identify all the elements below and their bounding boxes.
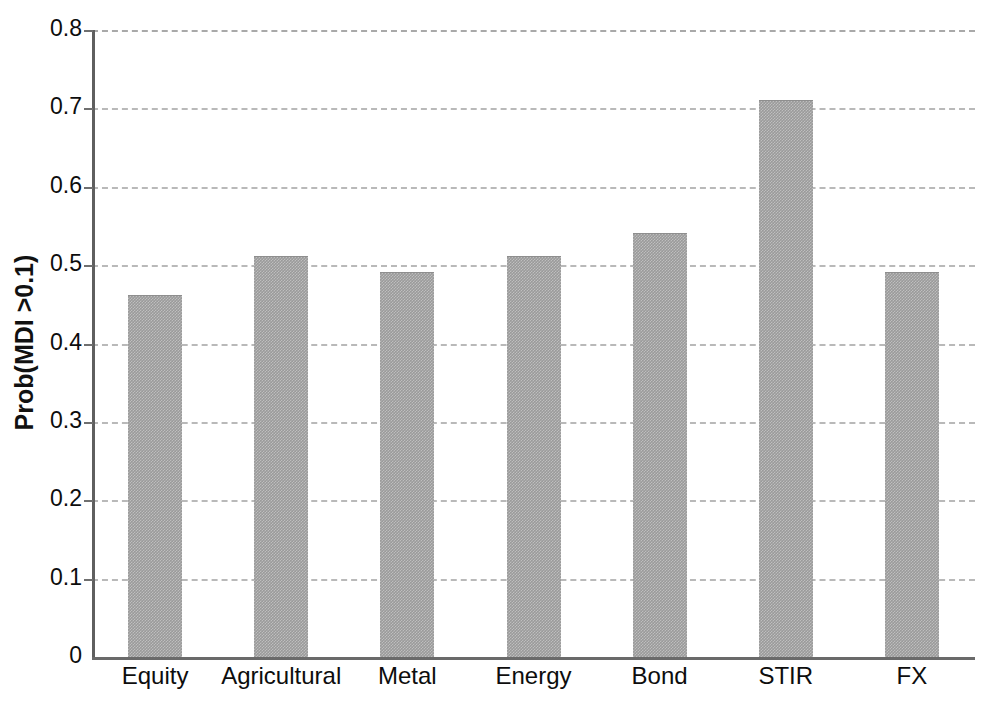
x-axis-tick-label: Equity bbox=[92, 662, 218, 690]
x-axis-tick-label: Bond bbox=[597, 662, 723, 690]
gridline bbox=[92, 30, 975, 32]
plot-area bbox=[92, 30, 975, 657]
x-axis-tick-label: FX bbox=[849, 662, 975, 690]
x-axis-tick-labels: EquityAgriculturalMetalEnergyBondSTIRFX bbox=[92, 662, 975, 702]
y-axis-tick-mark bbox=[84, 30, 93, 32]
x-axis-tick-label: Agricultural bbox=[218, 662, 344, 690]
y-axis-tick-label: 0.4 bbox=[50, 329, 82, 356]
bar-energy bbox=[507, 256, 561, 657]
y-axis-tick-labels: 00.10.20.30.40.50.60.70.8 bbox=[8, 30, 82, 657]
y-axis-tick-mark bbox=[84, 108, 93, 110]
y-axis-tick-mark bbox=[84, 422, 93, 424]
y-axis-tick-label: 0 bbox=[69, 642, 82, 669]
x-axis-line bbox=[92, 657, 975, 660]
gridline bbox=[92, 108, 975, 110]
y-axis-tick-mark bbox=[84, 344, 93, 346]
bar-bond bbox=[633, 233, 687, 657]
y-axis-tick-mark bbox=[84, 187, 93, 189]
y-axis-tick-label: 0.6 bbox=[50, 172, 82, 199]
chart-page: Prob(MDI >0.1) 00.10.20.30.40.50.60.70.8… bbox=[0, 0, 999, 708]
y-axis-tick-label: 0.7 bbox=[50, 93, 82, 120]
y-axis-tick-label: 0.2 bbox=[50, 485, 82, 512]
y-axis-tick-label: 0.3 bbox=[50, 407, 82, 434]
bar-equity bbox=[128, 295, 182, 657]
bar-fx bbox=[885, 272, 939, 657]
bar-agricultural bbox=[254, 256, 308, 657]
y-axis-tick-label: 0.5 bbox=[50, 250, 82, 277]
y-axis-tick-label: 0.1 bbox=[50, 564, 82, 591]
x-axis-tick-label: Energy bbox=[470, 662, 596, 690]
x-axis-tick-label: STIR bbox=[723, 662, 849, 690]
gridline bbox=[92, 187, 975, 189]
y-axis-tick-mark bbox=[84, 579, 93, 581]
bar-metal bbox=[380, 272, 434, 657]
y-axis-tick-label: 0.8 bbox=[50, 15, 82, 42]
x-axis-tick-label: Metal bbox=[344, 662, 470, 690]
y-axis-tick-mark bbox=[84, 265, 93, 267]
y-axis-tick-mark bbox=[84, 500, 93, 502]
bar-stir bbox=[759, 100, 813, 657]
